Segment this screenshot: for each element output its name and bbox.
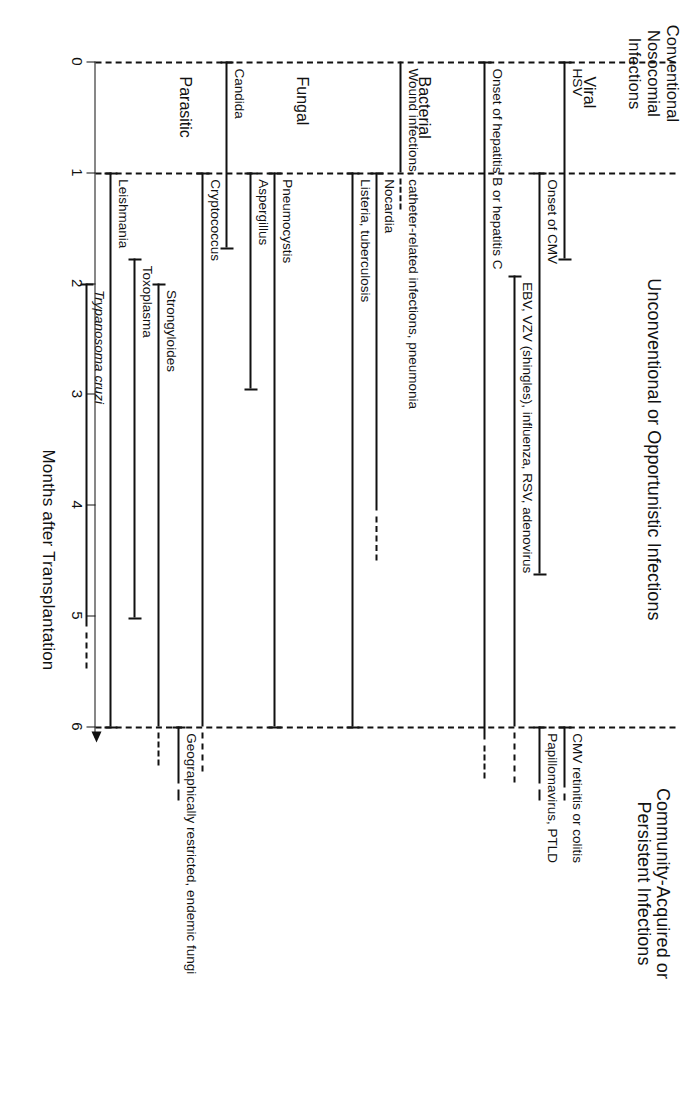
x-axis-tick bbox=[86, 504, 95, 505]
phase-heading-community: Community-Acquired or Persistent Infecti… bbox=[633, 718, 671, 1048]
timeline-bar-label: Pneumocystis bbox=[279, 179, 293, 263]
phase-line: Conventional bbox=[662, 0, 681, 168]
timeline-bar-label: Leishmania bbox=[115, 179, 129, 248]
timeline-bar[interactable] bbox=[538, 172, 540, 573]
timeline-bar[interactable] bbox=[85, 283, 87, 626]
timeline-bar[interactable] bbox=[157, 283, 159, 726]
x-axis-tick bbox=[86, 615, 95, 616]
timeline-bar-dashed-continuation bbox=[85, 632, 87, 667]
x-axis-line bbox=[94, 61, 95, 737]
timeline-bar-end-cap bbox=[245, 388, 258, 390]
x-axis-tick-label: 6 bbox=[68, 714, 84, 738]
x-axis-title: Months after Transplantation bbox=[37, 0, 57, 1119]
x-axis-tick bbox=[86, 61, 95, 62]
timeline-bar-label: HSV bbox=[569, 68, 583, 96]
timeline-bar-start-cap bbox=[245, 172, 258, 174]
timeline-bar-start-cap bbox=[509, 275, 522, 277]
timeline-bar-start-cap bbox=[105, 172, 118, 174]
timeline-bar-label: Cryptococcus bbox=[207, 179, 221, 261]
timeline-bar-end-cap bbox=[534, 573, 547, 575]
x-axis-tick-label: 1 bbox=[68, 160, 84, 184]
timeline-bar-start-cap bbox=[347, 172, 360, 174]
phase-separator-month0 bbox=[95, 61, 675, 63]
phase-line: Community-Acquired or bbox=[652, 718, 671, 1048]
x-axis-tick bbox=[86, 726, 95, 727]
phase-line: Persistent Infections bbox=[633, 718, 652, 1048]
timeline-bar-dashed-continuation bbox=[513, 732, 515, 782]
timeline-bar[interactable] bbox=[351, 172, 353, 726]
figure-canvas: Conventional Nosocomial Infections Uncon… bbox=[0, 0, 693, 1119]
x-axis-tick-label: 3 bbox=[68, 381, 84, 405]
timeline-bar-start-cap bbox=[479, 61, 492, 63]
x-axis-tick-label: 5 bbox=[68, 603, 84, 627]
timeline-bar[interactable] bbox=[249, 172, 251, 388]
x-axis-tick bbox=[86, 172, 95, 173]
timeline-bar[interactable] bbox=[483, 61, 485, 739]
timeline-bar[interactable] bbox=[133, 258, 135, 617]
timeline-bar-end-cap bbox=[105, 726, 118, 728]
timeline-bar-label: Onset of hepatitis B or hepatitis C bbox=[489, 68, 503, 269]
timeline-bar-dashed-continuation bbox=[483, 745, 485, 778]
group-heading-fungal: Fungal bbox=[293, 76, 310, 125]
timeline-bar[interactable] bbox=[375, 172, 377, 510]
phase-line: Unconventional or Opportunistic Infectio… bbox=[643, 170, 662, 728]
timeline-bar-start-cap bbox=[173, 726, 186, 728]
timeline-bar-start-cap bbox=[534, 726, 547, 728]
timeline-bar-label: Nocardia bbox=[381, 179, 395, 233]
timeline-bar-label: Aspergillus bbox=[255, 179, 269, 245]
phase-separator-month1 bbox=[95, 172, 675, 174]
timeline-bar-dashed-continuation bbox=[177, 789, 179, 800]
timeline-bar-start-cap bbox=[371, 172, 384, 174]
x-axis-tick-label: 2 bbox=[68, 271, 84, 295]
timeline-bar-end-cap bbox=[129, 617, 142, 619]
timeline-bar-start-cap bbox=[559, 61, 572, 63]
timeline-bar-dashed-continuation bbox=[375, 516, 377, 560]
timeline-bar-start-cap bbox=[221, 61, 234, 63]
timeline-bar-label: Listeria, tuberculosis bbox=[357, 179, 371, 302]
x-axis-arrow-icon bbox=[92, 731, 102, 742]
phase-heading-unconventional: Unconventional or Opportunistic Infectio… bbox=[643, 170, 662, 728]
timeline-bar[interactable] bbox=[399, 61, 401, 172]
timeline-bar-label: Strongyloides bbox=[163, 290, 177, 372]
timeline-bar[interactable] bbox=[201, 172, 203, 726]
timeline-bar[interactable] bbox=[109, 172, 111, 726]
timeline-bar-label: Toxoplasma bbox=[139, 265, 153, 337]
timeline-bar-dashed-continuation bbox=[563, 793, 565, 801]
x-axis-tick bbox=[86, 393, 95, 394]
timeline-bar-label: Wound infections, catheter-related infec… bbox=[405, 68, 419, 408]
timeline-bar-label: Trypanosoma cruzi bbox=[91, 290, 105, 404]
timeline-bar-dashed-continuation bbox=[538, 789, 540, 800]
timeline-bar[interactable] bbox=[273, 172, 275, 726]
timeline-bar-label: Papillomavirus, PTLD bbox=[544, 733, 558, 863]
timeline-bar-label: Onset of CMV bbox=[544, 179, 558, 264]
timeline-bar-end-cap bbox=[559, 258, 572, 260]
timeline-bar-dashed-continuation bbox=[201, 732, 203, 771]
x-axis-tick-label: 0 bbox=[68, 49, 84, 73]
timeline-bar[interactable] bbox=[563, 726, 565, 787]
timeline-bar[interactable] bbox=[177, 726, 179, 784]
timeline-bar-end-cap bbox=[347, 726, 360, 728]
phase-line: Nosocomial bbox=[643, 0, 662, 168]
timeline-bar[interactable] bbox=[513, 275, 515, 726]
phase-line: Infections bbox=[624, 0, 643, 168]
timeline-bar-start-cap bbox=[129, 258, 142, 260]
timeline-bar-dashed-continuation bbox=[157, 732, 159, 765]
timeline-bar-start-cap bbox=[269, 172, 282, 174]
timeline-bar[interactable] bbox=[563, 61, 565, 258]
timeline-bar-label: EBV, VZV (shingles), influenza, RSV, ade… bbox=[519, 282, 533, 573]
timeline-bar[interactable] bbox=[225, 61, 227, 247]
timeline-bar-start-cap bbox=[534, 172, 547, 174]
x-axis-tick bbox=[86, 283, 95, 284]
timeline-bar-label: Geographically restricted, endemic fungi bbox=[183, 733, 197, 974]
phase-heading-conventional: Conventional Nosocomial Infections bbox=[624, 0, 681, 168]
timeline-bar-end-cap bbox=[269, 726, 282, 728]
timeline-bar-label: Candida bbox=[231, 68, 245, 118]
timeline-bar-label: CMV retinitis or colitis bbox=[569, 733, 583, 863]
timeline-bar[interactable] bbox=[538, 726, 540, 784]
group-heading-parasitic: Parasitic bbox=[176, 76, 193, 137]
timeline-bar-start-cap bbox=[197, 172, 210, 174]
timeline-bar-start-cap bbox=[559, 726, 572, 728]
timeline-bar-dashed-continuation bbox=[399, 178, 401, 209]
x-axis-tick-label: 4 bbox=[68, 492, 84, 516]
